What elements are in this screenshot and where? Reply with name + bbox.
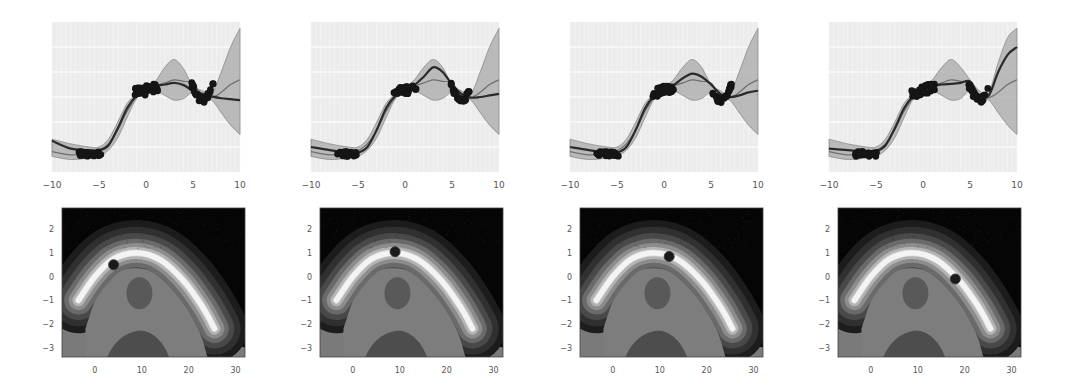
x-tick-label: −5 — [869, 180, 882, 190]
x-tick-label: 10 — [1011, 180, 1023, 190]
contour-fill — [320, 208, 503, 359]
y-tick-label: 1 — [825, 249, 830, 258]
y-tick-label: −2 — [300, 320, 312, 329]
y-tick-label: −1 — [560, 296, 572, 305]
central-minimum — [644, 277, 670, 309]
query-point-marker — [664, 251, 674, 261]
x-tick-label: 0 — [143, 180, 149, 190]
y-tick-label: 2 — [307, 225, 312, 234]
gp-regression-plot-3: −10−50510 — [558, 14, 770, 198]
x-tick-label: 5 — [708, 180, 714, 190]
x-tick-label: 10 — [395, 366, 405, 375]
central-minimum — [902, 277, 928, 309]
x-tick-label: −5 — [92, 180, 105, 190]
contour-fill — [62, 208, 246, 359]
y-tick-label: 1 — [49, 249, 54, 258]
y-tick-label: 2 — [49, 225, 54, 234]
x-tick-label: −10 — [561, 180, 580, 190]
x-tick-label: 0 — [402, 180, 408, 190]
x-tick-label: 0 — [610, 366, 615, 375]
x-tick-label: 5 — [967, 180, 973, 190]
gp-regression-plot-1: −10−50510 — [40, 14, 252, 198]
x-tick-label: 0 — [868, 366, 873, 375]
x-tick-label: 0 — [92, 366, 97, 375]
gp-regression-plot-4: −10−50510 — [817, 14, 1029, 198]
contour-svg: 0102030210−1−2−3 — [816, 200, 1031, 385]
central-minimum — [384, 277, 410, 309]
x-tick-label: 20 — [702, 366, 712, 375]
query-point-marker — [950, 274, 960, 284]
contour-plot-4: 0102030210−1−2−3 — [816, 200, 1031, 385]
central-minimum — [126, 277, 152, 309]
y-tick-label: 0 — [825, 273, 830, 282]
y-tick-label: −1 — [818, 296, 830, 305]
contour-svg: 0102030210−1−2−3 — [298, 200, 513, 385]
x-tick-label: 30 — [489, 366, 499, 375]
y-tick-label: −2 — [560, 320, 572, 329]
x-tick-label: 30 — [1007, 366, 1017, 375]
x-tick-label: 5 — [449, 180, 455, 190]
contour-svg: 0102030210−1−2−3 — [40, 200, 255, 385]
gp-svg: −10−50510 — [817, 14, 1029, 198]
y-tick-label: −1 — [300, 296, 312, 305]
y-tick-label: −2 — [42, 320, 54, 329]
gp-svg: −10−50510 — [558, 14, 770, 198]
x-tick-label: −5 — [351, 180, 364, 190]
contour-fill — [838, 208, 1021, 359]
y-tick-label: 0 — [49, 273, 54, 282]
y-tick-label: 2 — [825, 225, 830, 234]
gp-regression-plot-2: −10−50510 — [299, 14, 511, 198]
x-tick-label: −5 — [610, 180, 623, 190]
y-tick-label: −1 — [42, 296, 54, 305]
x-tick-label: 20 — [442, 366, 452, 375]
x-tick-label: 10 — [234, 180, 246, 190]
x-tick-label: 0 — [350, 366, 355, 375]
y-tick-label: −3 — [42, 344, 54, 353]
gp-svg: −10−50510 — [299, 14, 511, 198]
contour-svg: 0102030210−1−2−3 — [558, 200, 773, 385]
x-tick-label: −10 — [820, 180, 839, 190]
x-tick-label: 10 — [913, 366, 923, 375]
y-tick-label: 0 — [567, 273, 572, 282]
x-tick-label: −10 — [302, 180, 321, 190]
x-tick-label: 10 — [752, 180, 764, 190]
x-tick-label: 10 — [137, 366, 147, 375]
query-point-marker — [109, 260, 119, 270]
contour-plot-2: 0102030210−1−2−3 — [298, 200, 513, 385]
y-tick-label: −3 — [300, 344, 312, 353]
x-tick-label: 20 — [960, 366, 970, 375]
query-point-marker — [390, 247, 400, 257]
x-tick-label: −10 — [43, 180, 62, 190]
y-tick-label: −2 — [818, 320, 830, 329]
x-tick-label: 20 — [184, 366, 194, 375]
contour-plot-1: 0102030210−1−2−3 — [40, 200, 255, 385]
x-tick-label: 30 — [231, 366, 241, 375]
contour-fill — [580, 208, 764, 359]
y-tick-label: −3 — [560, 344, 572, 353]
x-tick-label: 30 — [749, 366, 759, 375]
gp-svg: −10−50510 — [40, 14, 252, 198]
contour-plot-3: 0102030210−1−2−3 — [558, 200, 773, 385]
y-tick-label: 0 — [307, 273, 312, 282]
x-tick-label: 10 — [493, 180, 505, 190]
x-tick-label: 0 — [920, 180, 926, 190]
y-tick-label: 1 — [307, 249, 312, 258]
x-tick-label: 5 — [190, 180, 196, 190]
x-tick-label: 0 — [661, 180, 667, 190]
x-tick-label: 10 — [655, 366, 665, 375]
y-tick-label: −3 — [818, 344, 830, 353]
y-tick-label: 1 — [567, 249, 572, 258]
y-tick-label: 2 — [567, 225, 572, 234]
